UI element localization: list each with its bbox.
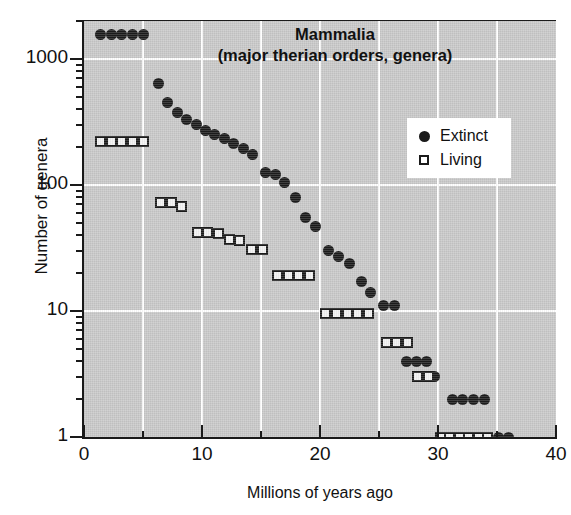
data-point-living: [138, 136, 149, 147]
data-point-living: [320, 308, 331, 319]
data-point-living: [402, 337, 413, 348]
y-tick-minor: [76, 329, 84, 331]
data-point-extinct: [468, 394, 479, 405]
y-tick-major: [70, 310, 84, 312]
chart-title: Mammalia (major therian orders, genera): [170, 24, 500, 65]
x-tick-minor: [260, 431, 262, 439]
legend-item-extinct: Extinct: [416, 124, 504, 148]
data-point-extinct: [153, 78, 164, 89]
data-point-extinct: [421, 356, 432, 367]
data-point-living: [293, 270, 304, 281]
y-tick-minor: [76, 96, 84, 98]
y-tick-minor: [76, 360, 84, 362]
y-tick-minor: [76, 234, 84, 236]
legend-label-extinct: Extinct: [440, 127, 488, 145]
plot-area: [84, 21, 556, 437]
data-point-extinct: [116, 29, 127, 40]
data-point-living: [381, 337, 392, 348]
data-point-living: [304, 270, 315, 281]
data-point-living: [363, 308, 374, 319]
y-tick-minor: [76, 196, 84, 198]
y-tick-major: [70, 184, 84, 186]
data-point-extinct: [323, 245, 334, 256]
legend: Extinct Living: [407, 118, 511, 178]
y-tick-minor: [76, 203, 84, 205]
x-tick-minor: [378, 431, 380, 439]
x-tick-major: [201, 425, 203, 439]
data-point-living: [192, 227, 203, 238]
y-tick-minor: [76, 222, 84, 224]
data-point-extinct: [333, 251, 344, 262]
gridline-horizontal: [84, 184, 556, 186]
x-axis-title: Millions of years ago: [84, 484, 556, 502]
data-point-living: [176, 201, 187, 212]
y-tick-minor: [76, 86, 84, 88]
data-point-living: [202, 227, 213, 238]
y-tick-label: 10: [0, 298, 68, 320]
y-tick-minor: [76, 250, 84, 252]
data-point-living: [116, 136, 127, 147]
y-tick-minor: [76, 77, 84, 79]
data-point-living: [412, 371, 423, 382]
data-point-living: [352, 308, 363, 319]
x-tick-major: [437, 425, 439, 439]
data-point-living: [482, 432, 493, 438]
legend-item-living: Living: [416, 148, 504, 172]
data-point-extinct: [162, 97, 173, 108]
data-point-extinct: [344, 258, 355, 269]
data-point-extinct: [493, 432, 504, 438]
data-point-extinct: [290, 192, 301, 203]
gridline-vertical-minor: [142, 21, 144, 437]
x-tick-label: 30: [408, 443, 468, 465]
y-tick-minor: [76, 322, 84, 324]
data-point-extinct: [479, 394, 490, 405]
filled-circle-icon: [416, 131, 432, 142]
x-tick-label: 0: [54, 443, 114, 465]
y-tick-minor: [76, 20, 84, 22]
y-tick-minor: [76, 108, 84, 110]
data-point-living: [106, 136, 117, 147]
data-point-living: [166, 197, 177, 208]
y-tick-label: 100: [0, 172, 68, 194]
data-point-extinct: [365, 287, 376, 298]
y-tick-minor: [76, 272, 84, 274]
data-point-living: [127, 136, 138, 147]
x-tick-label: 40: [526, 443, 571, 465]
y-tick-minor: [76, 376, 84, 378]
x-tick-minor: [496, 431, 498, 439]
x-tick-major: [555, 425, 557, 439]
gridline-vertical-minor: [496, 21, 498, 437]
data-point-extinct: [138, 29, 149, 40]
gridline-vertical-minor: [260, 21, 262, 437]
y-tick-minor: [76, 146, 84, 148]
data-point-extinct: [300, 212, 311, 223]
data-point-extinct: [247, 149, 258, 160]
open-square-icon: [416, 155, 432, 165]
data-point-living: [391, 337, 402, 348]
chart-title-line1: Mammalia: [295, 25, 375, 43]
data-point-extinct: [279, 177, 290, 188]
data-point-extinct: [310, 221, 321, 232]
data-point-living: [257, 244, 268, 255]
y-tick-minor: [76, 190, 84, 192]
data-point-extinct: [447, 394, 458, 405]
data-point-living: [331, 308, 342, 319]
chart-title-line2: (major therian orders, genera): [170, 45, 500, 66]
y-tick-minor: [76, 64, 84, 66]
y-axis-title: Number of genera: [32, 86, 52, 326]
data-point-living: [283, 270, 294, 281]
data-point-living: [423, 371, 434, 382]
x-tick-label: 20: [290, 443, 350, 465]
data-point-extinct: [389, 300, 400, 311]
data-point-living: [155, 197, 166, 208]
y-tick-minor: [76, 70, 84, 72]
y-tick-minor: [76, 398, 84, 400]
data-point-extinct: [457, 394, 468, 405]
data-point-living: [272, 270, 283, 281]
data-point-extinct: [503, 432, 514, 438]
data-point-living: [224, 234, 235, 245]
y-tick-minor: [76, 348, 84, 350]
data-point-living: [342, 308, 353, 319]
gridline-vertical-minor: [378, 21, 380, 437]
